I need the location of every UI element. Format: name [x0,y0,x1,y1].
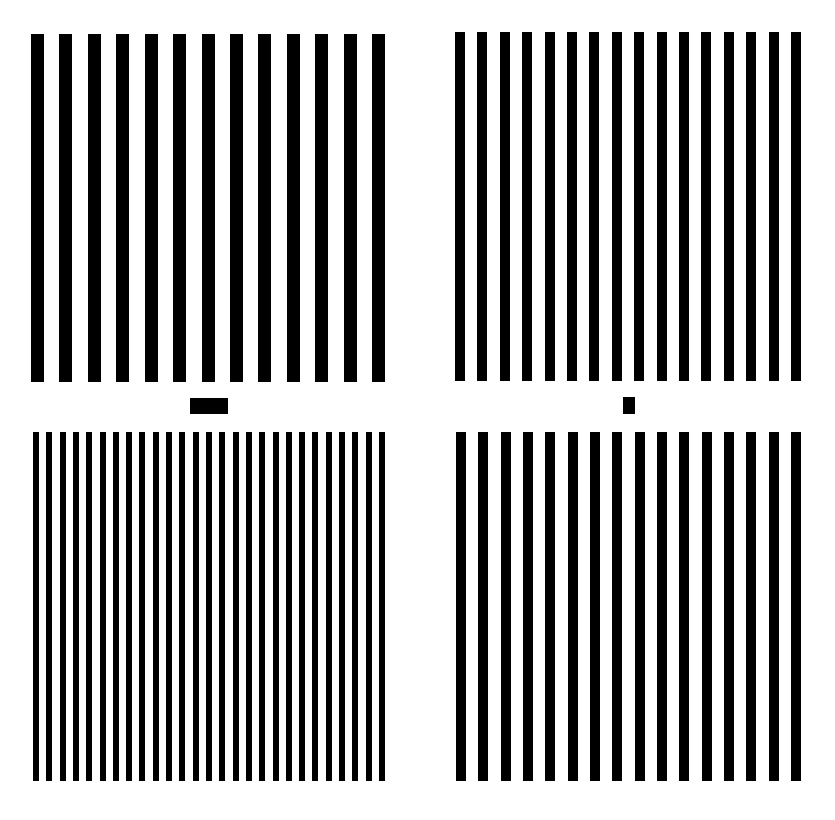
grating-bar [153,432,159,781]
grating-bottom-right [456,432,801,781]
grating-bar [193,432,199,781]
grating-bar [339,432,345,781]
grating-bar [568,432,578,781]
grating-bar [679,432,689,781]
grating-bar [145,34,158,382]
grating-bar [679,32,689,381]
grating-bar [701,32,711,381]
grating-bar [379,432,385,781]
grating-bar [612,32,622,381]
grating-bar [590,432,600,781]
grating-bar [501,432,511,781]
grating-bar [657,432,667,781]
grating-bottom-left [33,432,385,781]
grating-bar [139,432,145,781]
grating-bar [88,34,101,382]
fixation-bar-left [190,398,228,414]
grating-bar [724,32,734,381]
grating-bar [100,432,106,781]
grating-bar [746,32,756,381]
grating-bar [33,432,39,781]
grating-bar [612,432,622,781]
grating-bar [522,32,532,381]
grating-bar [545,32,555,381]
grating-bar [179,432,185,781]
grating-bar [456,432,466,781]
grating-bar [372,34,385,382]
grating-bar [31,34,44,382]
grating-bar [287,34,300,382]
grating-bar [746,432,756,781]
grating-bar [791,432,801,781]
grating-bar [523,432,533,781]
grating-top-right [455,32,801,381]
grating-bar [769,432,779,781]
grating-bar [702,432,712,781]
grating-bar [202,34,215,382]
grating-bar [86,432,92,781]
grating-bar [344,34,357,382]
grating-bar [166,432,172,781]
grating-bar [233,432,239,781]
grating-bar [113,432,119,781]
grating-bar [657,32,667,381]
grating-bar [286,432,292,781]
grating-bar [299,432,305,781]
grating-bar [116,34,129,382]
grating-bar [791,32,801,381]
grating-top-left [31,34,385,382]
grating-bar [478,432,488,781]
grating-bar [545,432,555,781]
grating-bar [455,32,465,381]
grating-bar [724,432,734,781]
grating-bar [589,32,599,381]
grating-bar [59,34,72,382]
grating-bar [312,432,318,781]
grating-bar [769,32,779,381]
grating-bar [352,432,358,781]
grating-bar [273,432,279,781]
grating-bar [326,432,332,781]
grating-bar [477,32,487,381]
grating-bar [206,432,212,781]
fixation-mark-right [623,397,635,414]
grating-bar [259,432,265,781]
grating-bar [567,32,577,381]
grating-bar [173,34,186,382]
grating-bar [46,432,52,781]
grating-bar [634,32,644,381]
grating-bar [219,432,225,781]
grating-bar [60,432,66,781]
grating-bar [635,432,645,781]
grating-bar [315,34,328,382]
grating-bar [258,34,271,382]
grating-bar [126,432,132,781]
grating-bar [73,432,79,781]
grating-bar [500,32,510,381]
grating-bar [366,432,372,781]
grating-bar [230,34,243,382]
grating-bar [246,432,252,781]
